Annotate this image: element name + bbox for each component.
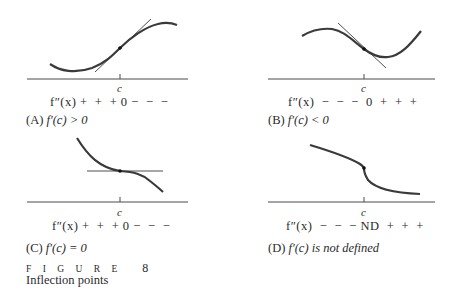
panel-d-curve (310, 145, 420, 194)
panel-a-curve (50, 23, 177, 71)
panel-a-graph (27, 19, 188, 79)
panel-c-c-label: c (117, 207, 122, 218)
panel-b-caption: (B) f′(c) < 0 (268, 114, 329, 127)
panel-a-caption: (A) f′(c) > 0 (26, 114, 88, 127)
panel-b-caption-text: f′(c) < 0 (288, 113, 329, 127)
panel-b-inflection-point (362, 47, 366, 51)
panel-a-sign-chart: f″(x) + + + 0 − − − (50, 96, 168, 109)
panel-d-inflection-point (362, 166, 366, 170)
panel-b-graph (268, 23, 435, 79)
panel-b-sign-chart: f″(x) − − − 0 + + + (288, 96, 417, 109)
panel-a-c-label: c (117, 83, 122, 94)
panel-d-caption: (D) f′(c) is not defined (268, 242, 379, 255)
panel-c-inflection-point (118, 169, 122, 173)
figure-title: Inflection points (26, 274, 108, 287)
panel-a-caption-prefix: (A) (26, 113, 46, 127)
panel-c-caption-text: f′(c) = 0 (46, 241, 87, 255)
panel-b-curve (302, 29, 421, 57)
panel-a-caption-text: f′(c) > 0 (46, 113, 87, 127)
panel-a-inflection-point (118, 46, 122, 50)
panel-c-caption: (C) f′(c) = 0 (26, 242, 87, 255)
panel-b-tangent-line (338, 23, 386, 68)
panel-c-curve (77, 138, 163, 192)
panel-d-graph (268, 145, 435, 202)
panel-a-tangent-line (95, 19, 151, 72)
panel-b-caption-prefix: (B) (268, 113, 288, 127)
panel-d-caption-text: f′(c) is not defined (288, 241, 379, 255)
panel-c-sign-chart: f″(x) + + + 0 − − − (52, 220, 170, 233)
panel-b-c-label: c (361, 83, 366, 94)
figure-number-value: 8 (142, 261, 148, 275)
panel-d-caption-prefix: (D) (268, 241, 288, 255)
panel-c-caption-prefix: (C) (26, 241, 46, 255)
panel-d-c-label: c (361, 207, 366, 218)
panel-c-graph (27, 138, 188, 202)
panel-d-sign-chart: f″(x) − − − ND + + + (286, 220, 424, 233)
